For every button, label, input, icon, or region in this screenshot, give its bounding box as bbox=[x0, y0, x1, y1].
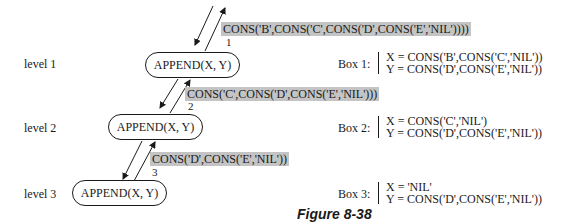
brace-icon bbox=[378, 182, 383, 204]
brace-icon bbox=[378, 52, 383, 74]
level-2-return-value: CONS('C',CONS('D',CONS('E','NIL'))) bbox=[185, 87, 379, 101]
level-1-label: level 1 bbox=[24, 57, 56, 72]
brace-icon bbox=[378, 116, 383, 138]
node-label: APPEND(X, Y) bbox=[81, 186, 159, 201]
level-1-return-step: 1 bbox=[226, 36, 232, 48]
level-3-label: level 3 bbox=[24, 187, 56, 202]
node-label: APPEND(X, Y) bbox=[117, 120, 195, 135]
node-label: APPEND(X, Y) bbox=[154, 58, 232, 73]
box-2-y-binding: Y = CONS('D',CONS('E','NIL')) bbox=[386, 127, 542, 139]
box-3-y-binding: Y = CONS('D',CONS('E','NIL')) bbox=[386, 193, 542, 205]
level-2-label: level 2 bbox=[24, 121, 56, 136]
level-3-append-node: APPEND(X, Y) bbox=[72, 180, 167, 206]
level-2-return-step: 2 bbox=[188, 100, 194, 112]
box-3-bindings: X = 'NIL' Y = CONS('D',CONS('E','NIL')) bbox=[378, 181, 542, 205]
box-2-bindings: X = CONS('C','NIL') Y = CONS('D',CONS('E… bbox=[378, 115, 542, 139]
level-1-return-value: CONS('B',CONS('C',CONS('D',CONS('E','NIL… bbox=[221, 22, 471, 36]
level-3-return-value: CONS('D',CONS('E','NIL')) bbox=[150, 152, 289, 166]
box-3-label: Box 3: bbox=[338, 187, 370, 202]
level-3-return-step: 3 bbox=[152, 166, 158, 178]
level-1-append-node: APPEND(X, Y) bbox=[145, 52, 240, 78]
box-1-y-binding: Y = CONS('D',CONS('E','NIL')) bbox=[386, 63, 542, 75]
level-2-append-node: APPEND(X, Y) bbox=[108, 114, 203, 140]
box-2-label: Box 2: bbox=[338, 121, 370, 136]
box-1-bindings: X = CONS('B',CONS('C','NIL')) Y = CONS('… bbox=[378, 51, 542, 75]
figure-caption: Figure 8-38 bbox=[297, 206, 372, 222]
box-1-label: Box 1: bbox=[338, 57, 370, 72]
